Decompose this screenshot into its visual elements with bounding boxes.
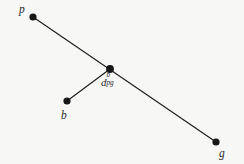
distance-label-scripts: bpg [107, 75, 116, 86]
node-label-p: p [19, 4, 25, 16]
figure-canvas: p b g dbpg [0, 0, 244, 164]
distance-label-superscript: b [107, 72, 111, 79]
node-dot-g [212, 138, 219, 145]
node-label-b: b [61, 110, 67, 122]
edge-p-to-g [33, 17, 216, 142]
figure-graphics [0, 0, 244, 164]
node-label-g: g [219, 148, 225, 160]
distance-label: dbpg [101, 75, 116, 88]
node-dot-b [63, 97, 70, 104]
distance-label-subscript: pg [107, 80, 114, 87]
node-dot-p [29, 13, 36, 20]
